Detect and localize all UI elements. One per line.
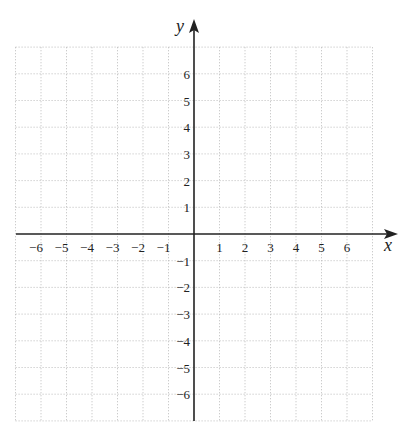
- x-tick-label: 6: [344, 240, 351, 255]
- x-axis-label: x: [383, 235, 392, 255]
- x-tick-label: 5: [318, 240, 325, 255]
- x-tick-label: 2: [242, 240, 249, 255]
- coordinate-plane: −6−5−4−3−2−1123456 −6−5−4−3−2−1123456 x …: [0, 0, 407, 432]
- y-tick-label: −4: [176, 334, 190, 349]
- x-tick-label: −1: [157, 240, 171, 255]
- x-tick-label: −6: [29, 240, 43, 255]
- y-tick-label: −1: [176, 254, 190, 269]
- x-tick-label: −4: [80, 240, 94, 255]
- x-tick-label: −5: [55, 240, 69, 255]
- y-tick-label: −5: [176, 361, 190, 376]
- y-tick-label: 3: [184, 147, 191, 162]
- y-tick-label: −6: [176, 387, 190, 402]
- y-tick-label: −3: [176, 307, 190, 322]
- x-tick-label: 3: [267, 240, 274, 255]
- y-tick-label: −2: [176, 280, 190, 295]
- x-tick-label: 1: [216, 240, 223, 255]
- y-tick-label: 6: [184, 67, 191, 82]
- x-tick-label: −3: [106, 240, 120, 255]
- y-tick-label: 5: [184, 94, 191, 109]
- y-tick-label: 2: [184, 174, 191, 189]
- y-tick-label: 4: [184, 120, 191, 135]
- y-axis-label: y: [174, 16, 184, 36]
- y-tick-label: 1: [184, 200, 191, 215]
- x-tick-label: 4: [293, 240, 300, 255]
- axes: [16, 19, 398, 421]
- x-tick-label: −2: [131, 240, 145, 255]
